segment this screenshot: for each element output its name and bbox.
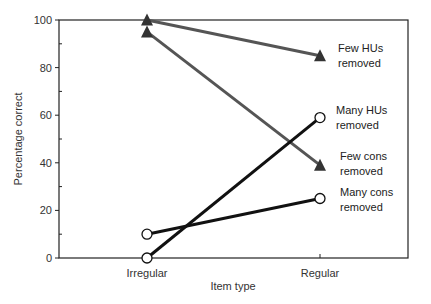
series-annotation: removed xyxy=(338,57,381,69)
circle-marker xyxy=(142,253,152,263)
triangle-marker xyxy=(141,25,153,37)
circle-marker xyxy=(142,229,152,239)
series-group xyxy=(141,14,326,264)
series-line xyxy=(147,199,320,235)
y-tick-label: 0 xyxy=(46,252,52,264)
y-tick-label: 80 xyxy=(40,62,52,74)
y-tick-label: 40 xyxy=(40,157,52,169)
series-annotation: removed xyxy=(340,165,383,177)
series-annotation: Few HUs xyxy=(338,42,384,54)
y-axis: 020406080100 xyxy=(34,14,62,264)
series-line xyxy=(147,32,320,165)
x-tick-label: Regular xyxy=(301,267,340,279)
circle-marker xyxy=(315,194,325,204)
series-annotation: Many cons xyxy=(340,186,394,198)
series-annotation: Few cons xyxy=(340,150,388,162)
x-axis-title: Item type xyxy=(210,280,255,292)
series-annotation: Many HUs xyxy=(336,104,388,116)
y-tick-label: 100 xyxy=(34,14,52,26)
y-tick-label: 60 xyxy=(40,109,52,121)
y-tick-label: 20 xyxy=(40,204,52,216)
line-chart: 020406080100 IrregularRegular Percentage… xyxy=(0,0,431,304)
series-annotation: removed xyxy=(336,119,379,131)
y-axis-title: Percentage correct xyxy=(12,93,24,186)
series-annotations: Few HUsremovedFew consremovedMany HUsrem… xyxy=(336,42,394,213)
plot-frame xyxy=(59,20,408,258)
series-annotation: removed xyxy=(340,201,383,213)
series-line xyxy=(147,118,320,258)
circle-marker xyxy=(315,113,325,123)
x-tick-label: Irregular xyxy=(127,267,168,279)
plot-border xyxy=(59,20,408,258)
